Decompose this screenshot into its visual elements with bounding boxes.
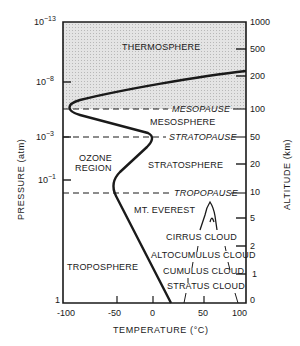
thermosphere-label: THERMOSPHERE bbox=[122, 42, 200, 52]
left-axis-title: PRESSURE (atm) bbox=[16, 139, 26, 220]
ozone-label-line1: OZONE bbox=[79, 153, 112, 163]
right-tick-label-500: 500 bbox=[250, 44, 265, 54]
stratopause-label: STRATOPAUSE bbox=[169, 132, 238, 142]
troposphere-label: TROPOSPHERE bbox=[67, 262, 138, 272]
altocumulus-label: ALTOCUMULUS CLOUD bbox=[151, 250, 256, 260]
right-tick-label-0: 0 bbox=[250, 295, 255, 305]
x-tick-label-minus100: -100 bbox=[57, 308, 75, 318]
everest-peak-outline bbox=[200, 202, 217, 230]
stratus-mark-2 bbox=[235, 293, 238, 303]
cirrus-label: CIRRUS CLOUD bbox=[166, 232, 237, 242]
x-axis-title: TEMPERATURE (°C) bbox=[113, 325, 209, 335]
x-tick-label-0: 0 bbox=[150, 308, 155, 318]
left-tick-label-1: 10−8 bbox=[36, 75, 54, 87]
tropopause-label: TROPOPAUSE bbox=[174, 188, 239, 198]
left-tick-label-3: 10−1 bbox=[38, 173, 56, 185]
left-tick-label-4: 1 bbox=[55, 295, 60, 305]
right-tick-label-20: 20 bbox=[250, 159, 260, 169]
right-tick-label-1000: 1000 bbox=[250, 17, 270, 27]
ozone-label-line2: REGION bbox=[75, 163, 112, 173]
everest-label: MT. EVEREST bbox=[134, 205, 196, 215]
right-tick-label-5: 5 bbox=[250, 213, 255, 223]
x-tick-label-minus50: -50 bbox=[108, 308, 121, 318]
right-tick-label-50: 50 bbox=[250, 132, 260, 142]
atmosphere-diagram: 10−13 10−8 10−3 10−1 1 1000 500 200 100 … bbox=[0, 0, 300, 346]
right-tick-label-100: 100 bbox=[250, 104, 265, 114]
right-axis-title: ALTITUDE (km) bbox=[282, 139, 292, 210]
stratus-label: STRATUS CLOUD bbox=[167, 281, 245, 291]
right-tick-label-1: 1 bbox=[252, 269, 257, 279]
mesopause-label: MESOPAUSE bbox=[172, 104, 231, 114]
left-tick-label-0: 10−13 bbox=[34, 15, 56, 27]
cumulus-label: CUMULUS CLOUD bbox=[163, 266, 244, 276]
x-tick-label-50: 50 bbox=[198, 308, 208, 318]
left-tick-label-2: 10−3 bbox=[36, 130, 54, 142]
mesosphere-label: MESOSPHERE bbox=[150, 117, 216, 127]
stratus-mark bbox=[184, 293, 186, 303]
x-tick-label-100: 100 bbox=[232, 308, 247, 318]
right-tick-label-200: 200 bbox=[250, 71, 265, 81]
stratosphere-label: STRATOSPHERE bbox=[148, 160, 223, 170]
thermosphere-shading bbox=[63, 22, 246, 109]
right-tick-label-10: 10 bbox=[250, 187, 260, 197]
